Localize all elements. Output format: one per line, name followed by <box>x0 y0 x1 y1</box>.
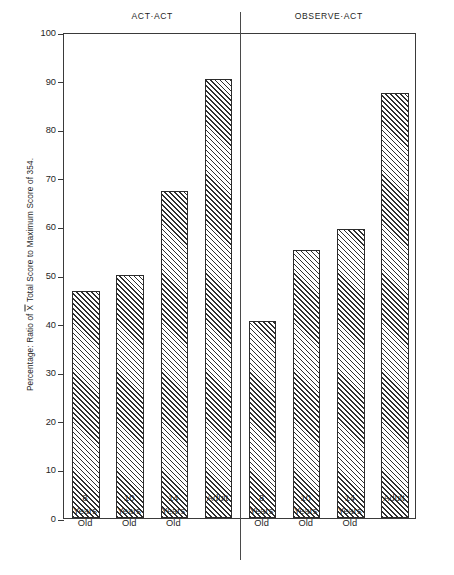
y-tick-label: 100 <box>30 28 56 38</box>
bar-slot <box>205 34 233 518</box>
bar-slot <box>337 34 365 518</box>
bar[interactable] <box>116 275 144 518</box>
panel-title-observe-act: OBSERVE·ACT <box>241 11 418 21</box>
x-axis-label-line: Years <box>320 505 380 518</box>
y-tick-label: 80 <box>30 125 56 135</box>
y-tick-label: 40 <box>30 320 56 330</box>
bar[interactable] <box>205 79 233 518</box>
panel-observe-act: OBSERVE·ACT <box>241 34 418 518</box>
x-axis-label-line: Years <box>143 505 203 518</box>
bar-slot <box>116 34 144 518</box>
bar-slot <box>72 34 100 518</box>
y-tick-label: 20 <box>30 417 56 427</box>
x-axis-label-line: Adult <box>364 492 424 505</box>
bar-group-act-act <box>64 34 241 518</box>
bar[interactable] <box>337 229 365 518</box>
y-tick-label: 70 <box>30 174 56 184</box>
y-tick-label: 0 <box>30 514 56 524</box>
bar-group-observe-act <box>241 34 418 518</box>
y-tick-label: 90 <box>30 77 56 87</box>
panel-title-act-act: ACT·ACT <box>64 11 241 21</box>
x-axis-label-line: Old <box>143 517 203 530</box>
bar-chart-figure: Percentage: Ratio of X Total Score to Ma… <box>0 0 454 575</box>
y-tick-label: 30 <box>30 368 56 378</box>
bar[interactable] <box>161 191 189 518</box>
bar[interactable] <box>249 321 277 518</box>
x-bar-symbol: X <box>26 304 35 311</box>
bar-slot <box>293 34 321 518</box>
bar-slot <box>249 34 277 518</box>
bar[interactable] <box>293 250 321 518</box>
bar[interactable] <box>381 93 409 518</box>
x-axis-label-line: Old <box>320 517 380 530</box>
y-tick-label: 10 <box>30 465 56 475</box>
bar[interactable] <box>72 291 100 518</box>
bar-slot <box>381 34 409 518</box>
bar-slot <box>161 34 189 518</box>
panel-divider <box>240 12 241 560</box>
x-axis-label: Adult <box>364 492 424 505</box>
y-tick-label: 60 <box>30 222 56 232</box>
y-tick-label: 50 <box>30 271 56 281</box>
panel-act-act: ACT·ACT <box>64 34 241 518</box>
